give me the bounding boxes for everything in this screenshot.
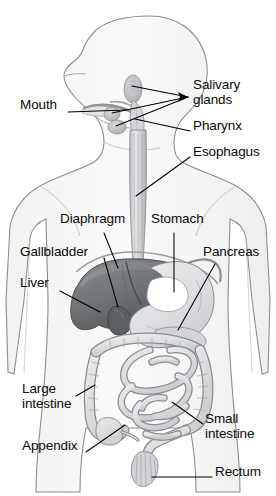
- label-diaphragm: Diaphragm: [60, 212, 125, 227]
- label-small-intestine: Smallintestine: [205, 412, 254, 441]
- label-liver: Liver: [20, 276, 49, 291]
- label-appendix: Appendix: [22, 439, 78, 454]
- digestive-system-figure: Mouth Salivaryglands Pharynx Esophagus D…: [0, 0, 276, 496]
- salivary-gland-sublingual: [108, 120, 126, 134]
- esophagus-organ: [130, 130, 147, 262]
- label-pancreas: Pancreas: [203, 245, 259, 260]
- label-esophagus: Esophagus: [193, 145, 260, 160]
- salivary-gland-submandibular: [104, 107, 120, 121]
- label-mouth: Mouth: [20, 98, 57, 113]
- label-stomach: Stomach: [151, 212, 204, 227]
- label-pharynx: Pharynx: [193, 119, 242, 134]
- label-rectum: Rectum: [215, 465, 261, 480]
- label-large-intestine: Largeintestine: [22, 382, 71, 411]
- rectum-organ: [131, 452, 158, 487]
- label-gallbladder: Gallbladder: [20, 245, 88, 260]
- label-salivary-glands: Salivaryglands: [193, 78, 240, 107]
- salivary-gland-parotid: [124, 75, 142, 103]
